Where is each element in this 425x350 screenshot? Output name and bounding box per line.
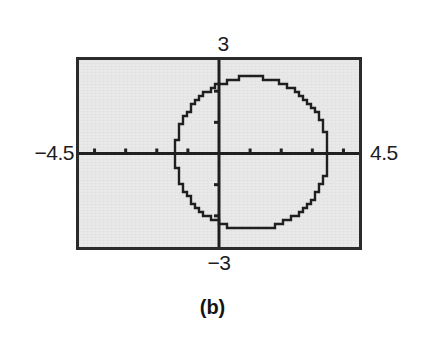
x-axis-min-label: −4.5 bbox=[18, 142, 74, 163]
plot-canvas bbox=[79, 60, 359, 247]
x-axis-max-label: 4.5 bbox=[370, 142, 425, 163]
y-axis-min-label: −3 bbox=[196, 252, 242, 273]
figure-caption: (b) bbox=[0, 296, 425, 319]
calculator-screen bbox=[76, 57, 362, 250]
y-axis-max-label: 3 bbox=[200, 33, 246, 54]
figure-container: 3 −3 −4.5 4.5 (b) bbox=[0, 0, 425, 350]
